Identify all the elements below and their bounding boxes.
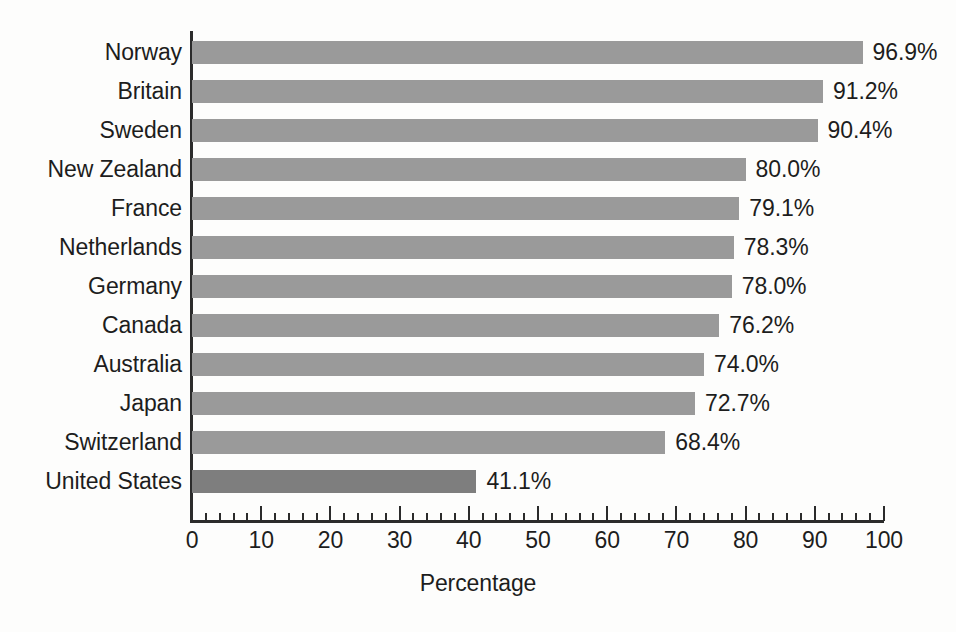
bar-row: Netherlands78.3%: [0, 228, 956, 267]
x-axis-major-tick: [468, 506, 470, 521]
category-label: New Zealand: [0, 150, 182, 189]
x-axis-minor-tick: [274, 513, 276, 521]
bar-chart: Norway96.9%Britain91.2%Sweden90.4%New Ze…: [0, 0, 956, 632]
bar-value-label: 76.2%: [729, 306, 794, 345]
category-label: Germany: [0, 267, 182, 306]
x-axis-major-tick: [883, 506, 885, 521]
x-axis-tick-label: 50: [498, 527, 578, 554]
bar-value-label: 68.4%: [675, 423, 740, 462]
x-axis-minor-tick: [440, 513, 442, 521]
x-axis-minor-tick: [302, 513, 304, 521]
bar: [192, 158, 746, 181]
bar: [192, 236, 734, 259]
category-label: Australia: [0, 345, 182, 384]
x-axis-minor-tick: [592, 513, 594, 521]
x-axis-minor-tick: [551, 513, 553, 521]
bar: [192, 197, 739, 220]
bar: [192, 392, 695, 415]
x-axis-minor-tick: [662, 513, 664, 521]
bar-row: Canada76.2%: [0, 306, 956, 345]
x-axis-minor-tick: [648, 513, 650, 521]
x-axis-tick-label: 70: [636, 527, 716, 554]
x-axis-minor-tick: [758, 513, 760, 521]
category-label: Netherlands: [0, 228, 182, 267]
x-axis-minor-tick: [385, 513, 387, 521]
bar-value-label: 78.3%: [744, 228, 809, 267]
bar-row: New Zealand80.0%: [0, 150, 956, 189]
x-axis-tick-label: 90: [775, 527, 855, 554]
x-axis-minor-tick: [233, 513, 235, 521]
x-axis-tick-label: 20: [290, 527, 370, 554]
bar-row: Norway96.9%: [0, 33, 956, 72]
x-axis-minor-tick: [800, 513, 802, 521]
x-axis-minor-tick: [288, 513, 290, 521]
category-label: United States: [0, 462, 182, 501]
x-axis-minor-tick: [620, 513, 622, 521]
bar-row: Switzerland68.4%: [0, 423, 956, 462]
x-axis-minor-tick: [412, 513, 414, 521]
x-axis-tick-label: 30: [360, 527, 440, 554]
x-axis-tick-label: 0: [152, 527, 232, 554]
x-axis-minor-tick: [841, 513, 843, 521]
x-axis-tick-label: 80: [706, 527, 786, 554]
x-axis-minor-tick: [523, 513, 525, 521]
bar: [192, 353, 704, 376]
x-axis-minor-tick: [509, 513, 511, 521]
category-label: Sweden: [0, 111, 182, 150]
category-label: France: [0, 189, 182, 228]
category-label: Norway: [0, 33, 182, 72]
bar-value-label: 80.0%: [756, 150, 821, 189]
x-axis-major-tick: [329, 506, 331, 521]
x-axis-minor-tick: [634, 513, 636, 521]
bar-value-label: 78.0%: [742, 267, 807, 306]
bar: [192, 80, 823, 103]
category-label: Britain: [0, 72, 182, 111]
x-axis-major-tick: [537, 506, 539, 521]
x-axis-major-tick: [260, 506, 262, 521]
bar-row: Germany78.0%: [0, 267, 956, 306]
x-axis-minor-tick: [246, 513, 248, 521]
bar-row: Australia74.0%: [0, 345, 956, 384]
x-axis-minor-tick: [426, 513, 428, 521]
x-axis-major-tick: [675, 506, 677, 521]
bar-row: France79.1%: [0, 189, 956, 228]
bar: [192, 275, 732, 298]
x-axis-minor-tick: [371, 513, 373, 521]
x-axis-minor-tick: [689, 513, 691, 521]
bar-value-label: 90.4%: [828, 111, 893, 150]
bar: [192, 314, 719, 337]
x-axis-title: Percentage: [0, 570, 956, 597]
x-axis-minor-tick: [786, 513, 788, 521]
x-axis-tick-label: 60: [567, 527, 647, 554]
bar: [192, 470, 476, 493]
bar-row: Sweden90.4%: [0, 111, 956, 150]
bar-value-label: 41.1%: [486, 462, 551, 501]
bar-value-label: 91.2%: [833, 72, 898, 111]
plot-area: Norway96.9%Britain91.2%Sweden90.4%New Ze…: [0, 0, 956, 632]
bar-value-label: 96.9%: [873, 33, 938, 72]
bar-row: Britain91.2%: [0, 72, 956, 111]
x-axis-minor-tick: [731, 513, 733, 521]
x-axis-major-tick: [745, 506, 747, 521]
x-axis-minor-tick: [855, 513, 857, 521]
x-axis-minor-tick: [869, 513, 871, 521]
bar: [192, 431, 665, 454]
bar-row: Japan72.7%: [0, 384, 956, 423]
x-axis-tick-label: 40: [429, 527, 509, 554]
bar-value-label: 79.1%: [749, 189, 814, 228]
x-axis-tick-label: 10: [221, 527, 301, 554]
x-axis-minor-tick: [357, 513, 359, 521]
x-axis-major-tick: [606, 506, 608, 521]
x-axis-major-tick: [399, 506, 401, 521]
category-label: Japan: [0, 384, 182, 423]
x-axis-minor-tick: [565, 513, 567, 521]
bar: [192, 41, 863, 64]
x-axis-minor-tick: [205, 513, 207, 521]
x-axis-major-tick: [814, 506, 816, 521]
bar-value-label: 74.0%: [714, 345, 779, 384]
x-axis-tick-label: 100: [844, 527, 924, 554]
x-axis-minor-tick: [828, 513, 830, 521]
category-label: Switzerland: [0, 423, 182, 462]
x-axis-minor-tick: [343, 513, 345, 521]
x-axis-minor-tick: [454, 513, 456, 521]
